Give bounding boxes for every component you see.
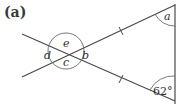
angle-label-c: c	[63, 56, 69, 69]
upper-line	[22, 5, 175, 77]
angle-label-a: a	[164, 10, 171, 23]
angle-label-d: d	[44, 49, 51, 62]
angle-label-e: e	[63, 37, 70, 50]
geometry-diagram: (a) a b c d e 62°	[0, 0, 181, 104]
figure-label: (a)	[4, 4, 26, 20]
angle-label-62: 62°	[153, 85, 173, 98]
angle-label-b: b	[82, 49, 89, 62]
